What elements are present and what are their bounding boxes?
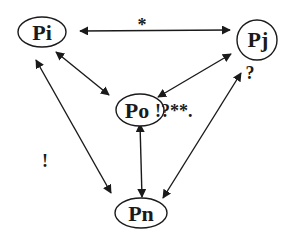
double-arrow-icon [158,54,231,97]
po-annotation: !?**. [155,101,193,121]
edge-label-pi-pj: * [138,15,147,35]
node-pj: Pj ? [237,20,277,83]
edge-pi-po [56,52,109,95]
node-po: Po !?**. [116,94,193,126]
node-pn: Pn [115,198,167,228]
double-arrow-icon [36,60,111,193]
edge-pi-pj: * [80,15,230,35]
edge-pj-po [158,54,231,97]
edge-po-pn [140,124,142,197]
double-arrow-icon [163,73,241,198]
node-label-po: Po [125,98,149,123]
node-label-pn: Pn [128,201,154,226]
pj-annotation: ? [246,63,255,83]
double-arrow-icon [80,30,230,31]
edge-pi-pn: ! [36,60,111,193]
double-arrow-icon [56,52,109,95]
edge-pj-pn [163,73,241,198]
node-label-pi: Pi [32,20,52,45]
double-arrow-icon [140,124,142,197]
node-pi: Pi [18,17,66,47]
edge-label-pi-pn: ! [42,151,48,171]
process-diagram: * ! Pi Pj ? Po !?**. Pn [0,0,291,239]
node-label-pj: Pj [248,27,269,52]
